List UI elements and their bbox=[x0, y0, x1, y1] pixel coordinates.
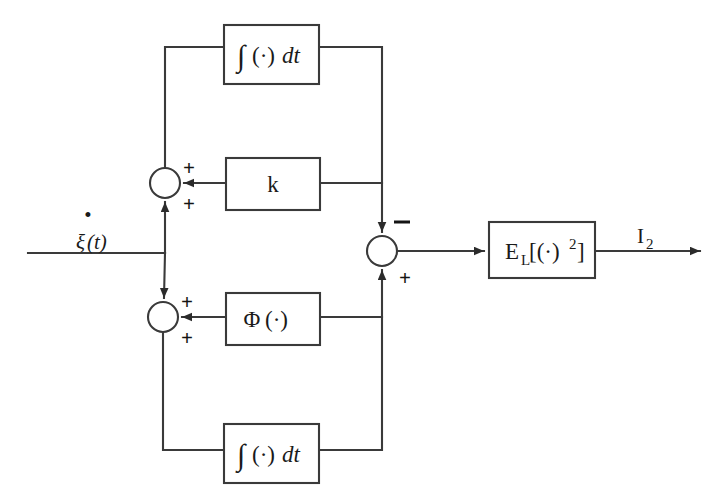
sign-right-bottom: + bbox=[399, 266, 411, 290]
upper-loop-left-wire bbox=[165, 47, 224, 168]
expectation-bracket-open: [(·) bbox=[529, 239, 560, 264]
expectation-bracket-close: ] bbox=[577, 239, 585, 264]
sign-lower-left-top: + bbox=[181, 290, 193, 314]
phi-label-group: Φ (·) bbox=[244, 307, 288, 332]
output-signal-label-group: I 2 bbox=[637, 224, 654, 252]
expectation-symbol: E bbox=[505, 239, 519, 264]
diagram-canvas: ∫ (·) dt k Φ (·) ∫ (·) dt E L [(·) 2 ] •… bbox=[0, 0, 716, 503]
expectation-exponent: 2 bbox=[569, 236, 577, 252]
block-diagram-figure: ∫ (·) dt k Φ (·) ∫ (·) dt E L [(·) 2 ] •… bbox=[0, 0, 716, 503]
summing-junction-upper-left bbox=[150, 168, 180, 198]
integrator-top-integral-glyph: ∫ bbox=[235, 39, 247, 75]
gain-k-label: k bbox=[267, 172, 279, 197]
integrator-bottom-differential: dt bbox=[282, 442, 301, 467]
integrator-top-differential: dt bbox=[282, 43, 301, 68]
summing-junction-lower-left bbox=[148, 302, 178, 332]
trunk-down-wire bbox=[164, 253, 165, 298]
input-signal-label-group: • ξ (t) bbox=[76, 203, 107, 254]
sign-upper-left-top: + bbox=[183, 156, 195, 180]
output-signal-symbol: I bbox=[637, 224, 644, 248]
integrator-top-operand: (·) bbox=[252, 43, 275, 68]
integrator-bottom-integral-glyph: ∫ bbox=[235, 438, 247, 474]
lower-loop-right-wire bbox=[319, 270, 382, 450]
lower-loop-left-wire bbox=[163, 332, 224, 450]
phi-operand: (·) bbox=[265, 307, 288, 332]
phi-symbol: Φ bbox=[244, 307, 261, 332]
sign-upper-left-bottom: + bbox=[183, 192, 195, 216]
input-signal-argument: (t) bbox=[87, 230, 107, 254]
summing-junction-right bbox=[367, 236, 397, 266]
sign-lower-left-bottom: + bbox=[181, 326, 193, 350]
output-signal-subscript: 2 bbox=[646, 236, 654, 252]
input-signal-dot: • bbox=[84, 203, 91, 227]
input-signal-symbol: ξ bbox=[76, 230, 85, 254]
integrator-bottom-operand: (·) bbox=[252, 442, 275, 467]
upper-loop-right-wire bbox=[319, 47, 382, 232]
